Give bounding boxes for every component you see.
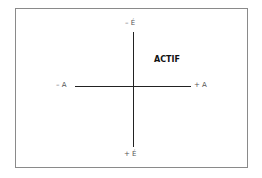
horizontal-axis (75, 86, 191, 87)
horizontal-axis-left-label: – A (56, 81, 67, 90)
quadrant-label: ACTIF (154, 55, 180, 65)
diagram-frame (15, 8, 248, 168)
vertical-axis (133, 32, 134, 147)
vertical-axis-bottom-label: + É (124, 150, 137, 159)
vertical-axis-top-label: – É (125, 19, 135, 28)
horizontal-axis-right-label: + A (194, 81, 207, 90)
